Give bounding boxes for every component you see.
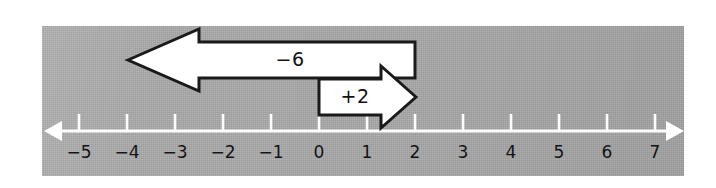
axis-tick-label: −1 bbox=[258, 142, 283, 162]
axis-tick-label: 3 bbox=[458, 142, 469, 162]
axis-tick-label: 6 bbox=[602, 142, 613, 162]
axis-tick-labels: −5−4−3−2−101234567 bbox=[66, 142, 660, 162]
axis-tick-label: 0 bbox=[314, 142, 325, 162]
axis-tick-marks bbox=[79, 114, 655, 131]
axis-tick-label: −3 bbox=[162, 142, 187, 162]
axis-tick-label: 2 bbox=[410, 142, 421, 162]
axis-tick-label: 4 bbox=[506, 142, 517, 162]
axis-tick-label: −2 bbox=[210, 142, 235, 162]
number-line-axis bbox=[44, 114, 684, 141]
minus-six-arrow-label: −6 bbox=[275, 48, 304, 70]
axis-tick-label: −5 bbox=[66, 142, 91, 162]
number-line-figure: −5−4−3−2−101234567 −6 +2 bbox=[0, 0, 716, 188]
plus-two-arrow-label: +2 bbox=[340, 85, 369, 107]
axis-tick-label: −4 bbox=[114, 142, 139, 162]
axis-tick-label: 5 bbox=[554, 142, 565, 162]
diagram-canvas: −5−4−3−2−101234567 −6 +2 bbox=[0, 0, 716, 188]
axis-tick-label: 7 bbox=[650, 142, 661, 162]
axis-right-arrowhead bbox=[666, 121, 684, 141]
axis-left-arrowhead bbox=[44, 121, 62, 141]
axis-tick-label: 1 bbox=[362, 142, 373, 162]
